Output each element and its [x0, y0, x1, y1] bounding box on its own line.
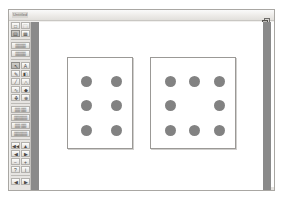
pointer-tool-button[interactable]: ↖ — [11, 62, 20, 69]
tool-row: ◀▶ — [11, 178, 30, 185]
palette-divider — [11, 39, 30, 40]
first-page-icon: ◀◀ — [12, 143, 20, 148]
copy-button[interactable]: ▒▒▒▒▒ — [11, 114, 30, 121]
tool-row: ╱△ — [11, 78, 30, 85]
dot[interactable] — [165, 125, 176, 136]
palette-divider — [11, 59, 30, 60]
command-group: ▒▒ ▒▒▒▒▒▒▒▒▒ ▒▒▒▒▒▒▒ — [11, 106, 30, 137]
tool-row: ✎◧ — [11, 70, 30, 77]
drawing-canvas[interactable] — [39, 22, 263, 190]
zoom-tool-icon: ⊕ — [24, 95, 28, 100]
undo-button[interactable]: ▒▒ ▒▒ — [11, 106, 30, 113]
play-button[interactable]: ▶ — [21, 178, 30, 185]
shape-tool-button[interactable]: △ — [21, 78, 30, 85]
tool-row: ?i — [11, 166, 30, 173]
new-document-icon: □ — [14, 23, 17, 28]
playback-group: ◀▶ — [11, 178, 30, 185]
tool-row: ↖A — [11, 62, 30, 69]
palette-divider — [11, 139, 30, 140]
text-style-group: ▒▒▒▒▒▒▒▒ — [11, 42, 30, 57]
dot-box-right[interactable] — [150, 57, 236, 149]
document-area — [31, 22, 274, 190]
page-up-icon: ▲ — [23, 143, 28, 148]
tool-row: ❖⊕ — [11, 94, 30, 101]
fill-tool-button[interactable]: ◆ — [21, 86, 30, 93]
dot[interactable] — [165, 76, 176, 87]
page-layout-icon: ▦ — [23, 31, 28, 36]
dot[interactable] — [81, 125, 92, 136]
clear-button[interactable]: ▒▒▒▒▒ — [11, 130, 30, 137]
text-tool-button[interactable]: A — [21, 62, 30, 69]
stamp-tool-icon: ❖ — [14, 95, 18, 100]
tool-row: ◀▶ — [11, 150, 30, 157]
curve-tool-icon: ∿ — [14, 87, 18, 92]
paste-button[interactable]: ▒▒ ▒▒ — [11, 122, 30, 129]
page-up-button[interactable]: ▲ — [21, 142, 30, 149]
dot[interactable] — [111, 76, 122, 87]
file-group: □⬚▤▦ — [11, 22, 30, 37]
navigation-group: ◀◀▲◀▶−+?i — [11, 142, 30, 173]
font-style-field[interactable]: ▒▒▒▒ — [11, 50, 30, 57]
window-title: Untitled — [12, 12, 28, 18]
curve-tool-button[interactable]: ∿ — [11, 86, 20, 93]
palette-divider — [11, 103, 30, 104]
palette-divider — [11, 175, 30, 176]
screenshot-root: Untitled □⬚▤▦▒▒▒▒▒▒▒▒↖A✎◧╱△∿◆❖⊕▒▒ ▒▒▒▒▒▒… — [0, 0, 283, 199]
title-bar[interactable]: Untitled — [9, 10, 274, 21]
font-size-field[interactable]: ▒▒▒▒ — [11, 42, 30, 49]
page-view-button[interactable]: ▤ — [11, 30, 20, 37]
zoom-out-button[interactable]: − — [11, 158, 20, 165]
info-button[interactable]: i — [21, 166, 30, 173]
open-document-icon: ⬚ — [23, 23, 28, 28]
help-icon: ? — [14, 167, 17, 172]
dot[interactable] — [165, 100, 176, 111]
dot[interactable] — [214, 100, 225, 111]
line-tool-button[interactable]: ╱ — [11, 78, 20, 85]
application-window: Untitled □⬚▤▦▒▒▒▒▒▒▒▒↖A✎◧╱△∿◆❖⊕▒▒ ▒▒▒▒▒▒… — [8, 9, 275, 191]
play-icon: ▶ — [24, 179, 28, 184]
zoom-in-button[interactable]: + — [21, 158, 30, 165]
page-gutter-right[interactable] — [263, 22, 271, 190]
tool-row: −+ — [11, 158, 30, 165]
tool-palette-groups: □⬚▤▦▒▒▒▒▒▒▒▒↖A✎◧╱△∿◆❖⊕▒▒ ▒▒▒▒▒▒▒▒▒ ▒▒▒▒▒… — [10, 22, 30, 185]
eraser-tool-button[interactable]: ◧ — [21, 70, 30, 77]
tool-row: ◀◀▲ — [11, 142, 30, 149]
first-page-button[interactable]: ◀◀ — [11, 142, 20, 149]
rewind-icon: ◀ — [14, 179, 18, 184]
page-layout-button[interactable]: ▦ — [21, 30, 30, 37]
previous-page-button[interactable]: ◀ — [11, 150, 20, 157]
tool-row: □⬚ — [11, 22, 30, 29]
dot[interactable] — [81, 100, 92, 111]
tool-row: ▤▦ — [11, 30, 30, 37]
dot[interactable] — [189, 125, 200, 136]
drawing-tools-group: ↖A✎◧╱△∿◆❖⊕ — [11, 62, 30, 101]
zoom-tool-button[interactable]: ⊕ — [21, 94, 30, 101]
fill-tool-icon: ◆ — [24, 87, 28, 92]
zoom-in-icon: + — [24, 159, 27, 164]
page-gutter-left — [31, 22, 39, 190]
info-icon: i — [25, 167, 26, 172]
dot[interactable] — [81, 76, 92, 87]
next-page-button[interactable]: ▶ — [21, 150, 30, 157]
dot[interactable] — [111, 100, 122, 111]
stamp-tool-button[interactable]: ❖ — [11, 94, 20, 101]
restore-window-icon[interactable] — [262, 11, 271, 19]
dot[interactable] — [189, 76, 200, 87]
rewind-button[interactable]: ◀ — [11, 178, 20, 185]
dot[interactable] — [111, 125, 122, 136]
next-page-icon: ▶ — [24, 151, 28, 156]
dot-box-left[interactable] — [67, 57, 133, 149]
dot[interactable] — [214, 76, 225, 87]
pointer-tool-icon: ↖ — [14, 63, 18, 68]
previous-page-icon: ◀ — [14, 151, 18, 156]
pencil-tool-icon: ✎ — [14, 71, 18, 76]
tool-row: ∿◆ — [11, 86, 30, 93]
help-button[interactable]: ? — [11, 166, 20, 173]
dot[interactable] — [214, 125, 225, 136]
open-document-button[interactable]: ⬚ — [21, 22, 30, 29]
tool-palette[interactable]: □⬚▤▦▒▒▒▒▒▒▒▒↖A✎◧╱△∿◆❖⊕▒▒ ▒▒▒▒▒▒▒▒▒ ▒▒▒▒▒… — [10, 22, 31, 190]
pencil-tool-button[interactable]: ✎ — [11, 70, 20, 77]
new-document-button[interactable]: □ — [11, 22, 20, 29]
eraser-tool-icon: ◧ — [23, 71, 28, 76]
zoom-out-icon: − — [14, 159, 17, 164]
